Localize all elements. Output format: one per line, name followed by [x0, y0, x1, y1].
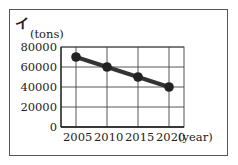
series-line — [76, 57, 169, 87]
data-point-2015 — [133, 72, 143, 82]
plot-area — [0, 0, 238, 165]
data-point-2005 — [71, 52, 81, 62]
data-point-2010 — [102, 62, 112, 72]
data-point-2020 — [164, 82, 174, 92]
